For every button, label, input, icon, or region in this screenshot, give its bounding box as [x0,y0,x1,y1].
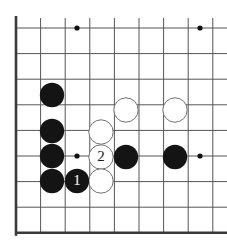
white-stone [89,145,113,169]
star-point [74,153,79,158]
white-stone [89,120,113,144]
black-stone [40,169,64,193]
go-board-diagram: 12 [0,0,227,240]
star-point [74,25,79,30]
black-stone [40,144,64,168]
star-point [197,25,202,30]
black-stone [65,169,89,193]
black-stone [40,83,64,107]
white-stone [89,169,113,193]
go-board-canvas [0,0,227,240]
black-stone [163,145,187,169]
black-stone [40,119,64,143]
star-point [197,153,202,158]
black-stone [114,145,138,169]
white-stone [114,98,138,122]
white-stone [163,98,187,122]
